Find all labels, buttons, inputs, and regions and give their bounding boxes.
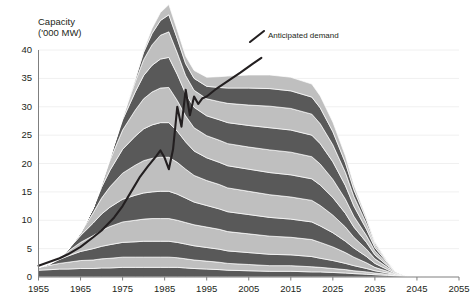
stacked-bands <box>39 5 460 277</box>
y-tick-label: 20 <box>4 158 32 169</box>
y-tick-label: 35 <box>4 72 32 83</box>
y-tick-label: 10 <box>4 214 32 225</box>
annotation-leader-line <box>250 31 264 42</box>
y-tick-label: 25 <box>4 129 32 140</box>
capacity-area-chart: Capacity ('000 MW) 0510152025303540 1955… <box>0 0 471 302</box>
y-tick-label: 30 <box>4 101 32 112</box>
x-tick-label: 1995 <box>183 283 231 294</box>
x-tick-label: 2035 <box>351 283 399 294</box>
x-tick-label: 2005 <box>225 283 273 294</box>
x-tick-label: 1975 <box>99 283 147 294</box>
y-tick-label: 5 <box>4 243 32 254</box>
y-tick-label: 15 <box>4 186 32 197</box>
x-tick-label: 1955 <box>15 283 63 294</box>
anticipated-demand-label: Anticipated demand <box>268 31 339 40</box>
x-tick-label: 2025 <box>309 283 357 294</box>
x-tick-label: 2045 <box>393 283 441 294</box>
x-tick-label: 1985 <box>141 283 189 294</box>
plot-area <box>0 0 471 302</box>
x-tick-label: 1965 <box>57 283 105 294</box>
x-tick-label: 2015 <box>267 283 315 294</box>
y-tick-label: 0 <box>4 271 32 282</box>
x-tick-label: 2055 <box>435 283 471 294</box>
y-tick-label: 40 <box>4 44 32 55</box>
